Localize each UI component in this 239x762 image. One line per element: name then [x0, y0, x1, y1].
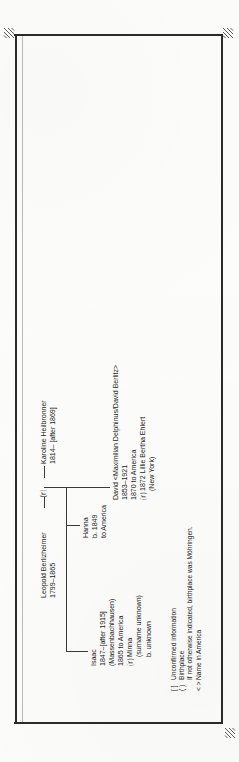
person-mother: Karoline Heilbronner 1814– [after 1869]: [40, 400, 58, 464]
spouse-marriage-row: ⒭ 1872 Lillie Bertha Ehlert: [139, 365, 148, 500]
legend-text: Birthplace: [178, 651, 185, 680]
marriage-symbol: ⒭: [139, 493, 147, 500]
person-name: Leopold Berlizheimer: [40, 532, 49, 598]
marriage-symbol: ⒭: [126, 659, 134, 666]
legend-text: If not otherwise indicated, birthplace w…: [186, 526, 193, 680]
child-drop-line: [66, 525, 80, 526]
registration-corner-mark: [222, 725, 236, 739]
descent-line: [44, 487, 66, 488]
marriage-connector: [44, 466, 45, 478]
person-dates: 1799–1865: [49, 532, 58, 598]
person-child-hanna: Hanna b. 1849 to America: [82, 505, 109, 538]
person-dates: 1814– [after 1869]: [49, 400, 58, 464]
child-drop-line: [66, 487, 110, 488]
scanned-page: Leopold Berlizheimer 1799–1865 ⒭ Karolin…: [0, 0, 239, 762]
page-border-left: [15, 34, 17, 723]
sibling-bar: [66, 487, 67, 652]
legend-row: [ ]Unconfirmed information: [170, 526, 178, 691]
child-drop-line: [66, 651, 88, 652]
parents-marriage-symbol: ⒭: [40, 490, 49, 497]
person-father: Leopold Berlizheimer 1799–1865: [40, 532, 58, 598]
spouse-marriage-row: ⒭ Minna: [126, 595, 135, 666]
person-child-david: David <Maximilian Delphinus/David Berlit…: [112, 365, 157, 500]
legend-row: < >Name in America: [194, 526, 202, 691]
legend: [ ]Unconfirmed information ( )Birthplace…: [170, 526, 203, 691]
person-child-isaac: Isaac 1847–[after 1915] (Massenbachhause…: [90, 595, 154, 666]
family-tree-diagram: Leopold Berlizheimer 1799–1865 ⒭ Karolin…: [20, 36, 220, 726]
legend-symbol: ( ): [178, 680, 186, 691]
legend-row: If not otherwise indicated, birthplace w…: [186, 526, 194, 691]
legend-symbol: [ ]: [170, 680, 178, 691]
person-name: Karoline Heilbronner: [40, 400, 49, 464]
legend-text: Unconfirmed information: [170, 608, 177, 680]
page-border-right: [221, 34, 223, 723]
legend-row: ( )Birthplace: [178, 526, 186, 691]
legend-text: Name in America: [194, 630, 201, 680]
marriage-connector: [44, 497, 45, 508]
registration-corner-mark: [222, 27, 236, 41]
legend-symbol: < >: [194, 680, 202, 691]
